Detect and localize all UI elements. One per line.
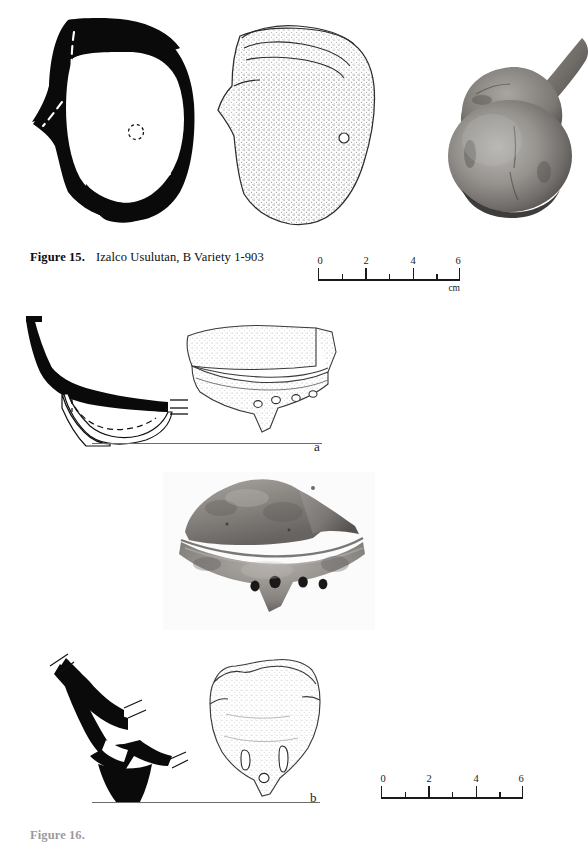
scale-tick-5 [436,274,437,281]
scale-tick-b3 [452,792,453,799]
scale-label-6: 6 [455,255,460,266]
scale-tick-b5 [499,792,500,799]
support-photograph [163,472,375,630]
support-stipple-drawing-b [196,654,336,802]
scale-tick-3 [389,274,390,281]
scale-tick-6 [459,268,460,281]
scale-tick-b2 [428,786,429,799]
scale-label-b6: 6 [518,773,523,784]
figure-caption: Figure 15.Izalco Usulutan, B Variety 1-9… [30,250,264,265]
scale-tick-b1 [405,792,406,799]
vessel-cross-section-profile [28,12,208,240]
bottom-figure-caption-number: Figure 16. [30,828,85,842]
vessel-photograph [440,22,588,236]
scale-tick-0 [318,268,319,281]
scale-label-b2: 2 [426,773,431,784]
scale-tick-1 [342,274,343,281]
scale-tick-4 [413,268,414,281]
scale-bar-top: 0 2 4 6 cm [318,244,460,290]
vessel-sherd-stipple-drawing [198,14,403,242]
perforation-hole [339,133,349,143]
support-stipple-drawing-a [166,322,346,444]
scale-unit-label: cm [448,283,460,293]
scale-tick-b0 [381,786,382,799]
specimen-label-a: a [314,439,320,455]
scale-label-b4: 4 [473,773,478,784]
figure-caption-number: Figure 15. [30,250,85,264]
support-cross-section-profile-b [28,652,208,812]
profile-baseline-b [92,802,320,803]
scale-label-b0: 0 [380,773,385,784]
scale-tick-b4 [476,786,477,799]
scale-label-0: 0 [317,255,322,266]
scale-bar-bottom: 0 2 4 6 [381,768,523,808]
scale-tick-2 [365,268,366,281]
figure-caption-text: Izalco Usulutan, B Variety 1-903 [96,250,264,264]
bottom-figure-caption: Figure 16. [30,828,96,843]
specimen-label-b: b [310,790,317,806]
scale-label-2: 2 [363,255,368,266]
scale-label-4: 4 [410,255,415,266]
scale-tick-b6 [522,786,523,799]
